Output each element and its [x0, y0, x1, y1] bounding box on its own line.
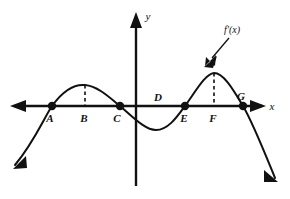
point-dot-c[interactable]	[116, 102, 124, 110]
x-axis-right-arrow-icon	[250, 100, 266, 112]
y-axis-top-arrow-icon	[130, 12, 142, 28]
x-axis-label: x	[269, 100, 275, 112]
point-label-e: E	[179, 112, 187, 124]
point-label-b: B	[79, 112, 87, 124]
y-axis-label: y	[145, 10, 151, 22]
point-label-a: A	[45, 112, 53, 124]
graph-svg: x y A B C D E F G	[0, 0, 290, 199]
point-label-d: D	[153, 91, 162, 103]
curve-right-end-arrow-icon	[264, 170, 278, 182]
axes-group: x y	[10, 10, 275, 186]
callout-leader-line	[212, 38, 229, 58]
x-axis-left-arrow-icon	[10, 100, 26, 112]
point-label-f: F	[208, 112, 217, 124]
figure-container: x y A B C D E F G	[0, 0, 290, 199]
curve-callout-group: f'(x)	[204, 24, 241, 68]
dashed-lines-group	[85, 73, 214, 105]
curve-function-label: f'(x)	[224, 24, 241, 36]
point-label-c: C	[113, 112, 121, 124]
point-dot-g[interactable]	[239, 102, 247, 110]
point-label-g: G	[237, 90, 245, 102]
point-dot-a[interactable]	[48, 102, 56, 110]
point-dot-e[interactable]	[181, 102, 189, 110]
derivative-curve	[15, 73, 275, 178]
